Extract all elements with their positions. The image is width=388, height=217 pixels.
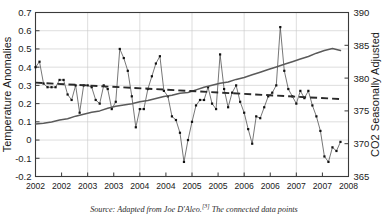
data-point-marker [171, 115, 173, 117]
data-point-marker [42, 82, 44, 84]
data-point-marker [143, 108, 145, 110]
data-point-marker [331, 146, 333, 148]
data-point-marker [38, 61, 40, 63]
data-point-marker [271, 92, 273, 94]
xtick-label: 2003 [104, 181, 123, 191]
ytick-label-left: 0.1 [18, 116, 31, 127]
data-point-marker [159, 55, 161, 57]
data-point-marker [319, 130, 321, 132]
caption-reference: [3] [202, 203, 210, 209]
ytick-label-right: 385 [354, 40, 370, 51]
data-point-marker [62, 79, 64, 81]
data-point-marker [135, 126, 137, 128]
data-point-marker [131, 95, 133, 97]
ytick-label-left: 0.3 [18, 80, 31, 91]
data-point-marker [263, 106, 265, 108]
data-point-marker [95, 99, 97, 101]
data-point-marker [139, 108, 141, 110]
xtick-label: 2004 [130, 181, 149, 191]
data-point-marker [71, 99, 73, 101]
data-series-group [34, 26, 341, 163]
data-point-marker [215, 108, 217, 110]
xtick-label: 2006 [235, 181, 254, 191]
series-co2-line [36, 49, 341, 124]
data-point-marker [111, 108, 113, 110]
data-point-marker [151, 75, 153, 77]
xtick-label: 2006 [261, 181, 280, 191]
data-point-marker [67, 93, 69, 95]
data-point-marker [191, 121, 193, 123]
data-point-marker [243, 112, 245, 114]
ytick-label-left: 0.6 [18, 25, 31, 36]
data-point-marker [327, 161, 329, 163]
data-point-marker [235, 84, 237, 86]
data-point-marker [251, 143, 253, 145]
xtick-label: 2004 [156, 181, 175, 191]
data-point-marker [155, 62, 157, 64]
xtick-label: 2003 [78, 181, 97, 191]
y-axis-title-left: Temperature Anomalies [1, 36, 13, 152]
data-point-marker [315, 115, 317, 117]
data-point-marker [219, 53, 221, 55]
data-point-marker [87, 84, 89, 86]
series-temperature-line [36, 27, 341, 162]
data-point-marker [115, 101, 117, 103]
data-point-marker [199, 99, 201, 101]
data-point-marker [34, 66, 36, 68]
data-point-marker [107, 88, 109, 90]
data-point-marker [255, 115, 257, 117]
data-point-marker [323, 155, 325, 157]
data-point-marker [307, 90, 309, 92]
data-point-marker [99, 103, 101, 105]
ytick-label-right: 370 [354, 138, 370, 149]
xtick-label: 2007 [313, 181, 332, 191]
ytick-label-left: 0.7 [18, 7, 31, 18]
data-point-marker [58, 79, 60, 81]
data-point-marker [183, 161, 185, 163]
data-point-marker [275, 84, 277, 86]
ytick-label-right: 380 [354, 73, 370, 84]
ytick-label-left: 0 [26, 134, 31, 145]
data-point-marker [195, 104, 197, 106]
figure-container: 0.70.60.50.40.30.20.10-0.1-0.23903853803… [0, 0, 388, 217]
data-point-marker [119, 48, 121, 50]
data-point-marker [239, 101, 241, 103]
data-point-marker [223, 88, 225, 90]
xtick-label: 2008 [339, 181, 358, 191]
caption-suffix: The connected data points [210, 205, 298, 214]
data-point-marker [335, 150, 337, 152]
data-point-marker [175, 119, 177, 121]
data-point-marker [203, 99, 205, 101]
xtick-label: 2002 [26, 181, 45, 191]
data-point-marker [247, 128, 249, 130]
data-point-marker [283, 70, 285, 72]
data-point-marker [187, 139, 189, 141]
data-point-marker [79, 112, 81, 114]
data-point-marker [227, 106, 229, 108]
figure-caption: Source: Adapted from Joe D'Aleo.[3] The … [0, 203, 388, 214]
data-point-marker [295, 103, 297, 105]
ytick-label-left: 0.5 [18, 43, 31, 54]
data-point-marker [46, 86, 48, 88]
data-point-marker [231, 92, 233, 94]
xtick-label: 2007 [287, 181, 306, 191]
data-point-marker [287, 88, 289, 90]
data-point-marker [127, 70, 129, 72]
data-point-marker [179, 132, 181, 134]
data-point-marker [339, 141, 341, 143]
ytick-label-left: 0.4 [18, 62, 31, 73]
ytick-label-left: 0.2 [18, 98, 31, 109]
data-point-marker [311, 104, 313, 106]
xtick-label: 2005 [182, 181, 201, 191]
data-point-marker [50, 86, 52, 88]
xtick-label: 2002 [52, 181, 71, 191]
temperature-co2-chart: 0.70.60.50.40.30.20.10-0.1-0.23903853803… [0, 0, 388, 200]
ytick-label-right: 375 [354, 105, 370, 116]
ytick-label-right: 390 [354, 7, 370, 18]
ytick-label-left: -0.1 [15, 153, 31, 164]
data-point-marker [279, 26, 281, 28]
xtick-label: 2005 [209, 181, 228, 191]
data-point-marker [123, 57, 125, 59]
data-point-marker [211, 103, 213, 105]
data-point-marker [299, 90, 301, 92]
